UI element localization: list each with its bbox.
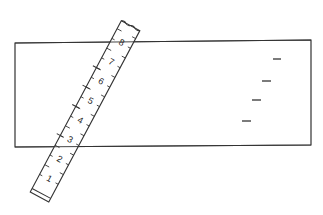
rectangle-shape bbox=[15, 40, 311, 147]
ruler-body bbox=[30, 21, 140, 202]
side-marks bbox=[242, 59, 281, 121]
ruler: 1 2 3 4 5 6 7 8 bbox=[27, 18, 141, 202]
ruler-diagram: 1 2 3 4 5 6 7 8 bbox=[0, 0, 323, 215]
rectangle-edge bbox=[15, 40, 311, 43]
